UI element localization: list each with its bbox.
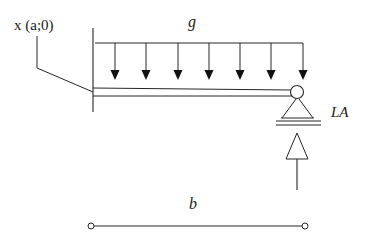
support-triangle-left-leg xyxy=(282,99,296,118)
beam-load-diagram: x (a;0) g LA b xyxy=(0,0,376,246)
point-label-leader-line xyxy=(37,36,93,92)
load-arrow xyxy=(236,43,245,80)
load-arrow xyxy=(267,43,276,80)
support-pin-circle xyxy=(291,86,304,99)
distributed-load-arrows xyxy=(111,43,308,80)
reaction-force-arrow xyxy=(286,133,308,190)
diagram-canvas xyxy=(0,0,376,246)
load-arrow xyxy=(299,43,308,80)
load-arrow xyxy=(174,43,183,80)
load-arrow xyxy=(111,43,120,80)
support-triangle-right-leg xyxy=(299,99,313,118)
support-reaction-label: LA xyxy=(331,105,349,120)
distributed-load-label: g xyxy=(188,14,196,30)
point-coordinate-label: x (a;0) xyxy=(14,18,54,33)
load-arrow xyxy=(142,43,151,80)
beam-top-edge xyxy=(93,88,291,90)
span-length-label: b xyxy=(189,196,197,212)
dimension-end-marker-right xyxy=(302,223,308,229)
dimension-end-marker-left xyxy=(88,223,94,229)
span-dimension-line xyxy=(88,223,308,229)
pin-support xyxy=(276,86,321,126)
load-arrow xyxy=(205,43,214,80)
